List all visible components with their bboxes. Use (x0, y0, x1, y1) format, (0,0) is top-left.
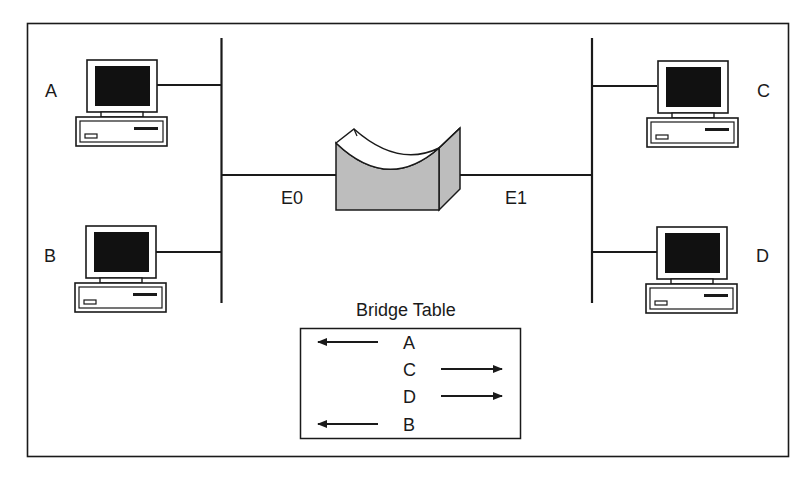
bridge-icon (336, 128, 460, 210)
host-label-b: B (44, 246, 56, 266)
bridge-table-row-host: D (403, 387, 416, 407)
port-label-e0: E0 (281, 188, 303, 208)
bridge-table-row-host: A (403, 333, 415, 353)
computer-icon-d (646, 227, 737, 313)
computer-icon-b (75, 226, 166, 312)
host-label-d: D (756, 246, 769, 266)
bridge-table-row-host: C (403, 360, 416, 380)
bridge-table-title: Bridge Table (356, 300, 456, 320)
host-label-a: A (45, 81, 57, 101)
host-label-c: C (757, 81, 770, 101)
bridge-diagram: A B C D E0 E1 Bridge Table A C D B (0, 0, 811, 477)
bridge-table-row-host: B (403, 415, 415, 435)
port-label-e1: E1 (505, 188, 527, 208)
computer-icon-a (76, 60, 167, 146)
computer-icon-c (647, 61, 738, 147)
